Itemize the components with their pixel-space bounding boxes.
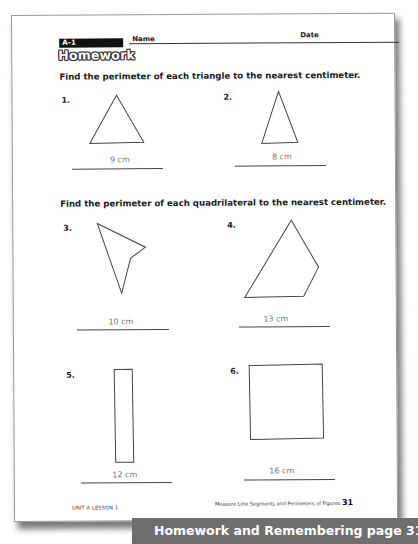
rectangle-5-shape <box>114 369 134 462</box>
footer-title: Measure Line Segments and Perimeters of … <box>215 498 353 508</box>
triangle-2-shape <box>261 91 297 143</box>
square-6-shape <box>249 364 323 439</box>
footer-page-number: 31 <box>342 498 353 507</box>
quadrilateral-4-shape <box>244 220 318 297</box>
page-reference-banner: Homework and Remembering page 31 <box>132 518 418 544</box>
shapes-layer <box>12 14 399 523</box>
triangle-1-shape <box>89 95 143 143</box>
footer-unit-lesson: UNIT A LESSON 1 <box>72 504 118 510</box>
footer-title-text: Measure Line Segments and Perimeters of … <box>215 500 340 507</box>
quadrilateral-3-shape <box>97 223 145 293</box>
worksheet-page: A–1 Name Date Homework Find the perimete… <box>11 13 398 522</box>
